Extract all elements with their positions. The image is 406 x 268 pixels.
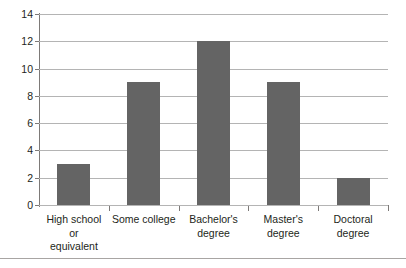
gridline [39,205,388,206]
y-axis-tick-label: 14 [3,9,33,19]
bar [197,41,230,205]
x-axis-label-line: equivalent [39,240,109,254]
x-axis-label: High schoolorequivalent [39,213,109,254]
x-axis-label: Master'sdegree [248,213,318,240]
gridline [39,14,388,15]
x-axis-label-line: Some college [109,213,179,227]
y-axis-tick-label: 6 [3,118,33,128]
x-axis-label-line: degree [318,227,388,241]
x-axis-label: Some college [109,213,179,227]
x-axis-label-line: or [39,227,109,241]
x-axis-label-line: Master's [248,213,318,227]
x-axis-tick-mark [388,206,389,211]
bar [267,82,300,205]
x-axis-tick-mark [179,206,180,211]
bottom-divider [0,258,406,259]
y-axis-tick-label-group: 02468101214 [0,0,33,268]
x-axis-label-group: High schoolorequivalentSome collegeBache… [39,213,389,261]
x-axis-tick-mark [248,206,249,211]
x-axis-tick-mark [318,206,319,211]
x-axis-label-line: degree [248,227,318,241]
x-axis-label-line: High school [39,213,109,227]
bar [127,82,160,205]
bar [337,178,370,205]
y-axis-tick-label: 4 [3,145,33,155]
y-axis-tick-label: 12 [3,36,33,46]
x-axis-tick-mark [109,206,110,211]
plot-area [39,14,388,205]
x-axis-label-line: Bachelor's [179,213,249,227]
x-axis-label: Doctoraldegree [318,213,388,240]
y-axis-tick-label: 0 [3,200,33,210]
x-axis-label-line: Doctoral [318,213,388,227]
y-axis-tick-label: 8 [3,91,33,101]
y-axis-tick-label: 10 [3,64,33,74]
y-axis-tick-label: 2 [3,173,33,183]
x-axis-label: Bachelor'sdegree [179,213,249,240]
bar [57,164,90,205]
x-axis-label-line: degree [179,227,249,241]
bar-chart-figure: 02468101214 High schoolorequivalentSome … [0,0,406,268]
